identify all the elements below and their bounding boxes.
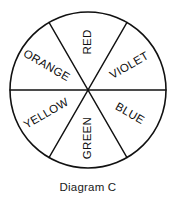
sector-label-green: GREEN bbox=[81, 117, 93, 159]
diagram-c-figure: RED VIOLET BLUE GREEN YELLOW ORANGE Diag… bbox=[0, 0, 176, 204]
diagram-caption: Diagram C bbox=[60, 181, 117, 193]
sector-label-red: RED bbox=[81, 29, 93, 54]
spinner-wheel-diagram: RED VIOLET BLUE GREEN YELLOW ORANGE Diag… bbox=[0, 0, 176, 204]
